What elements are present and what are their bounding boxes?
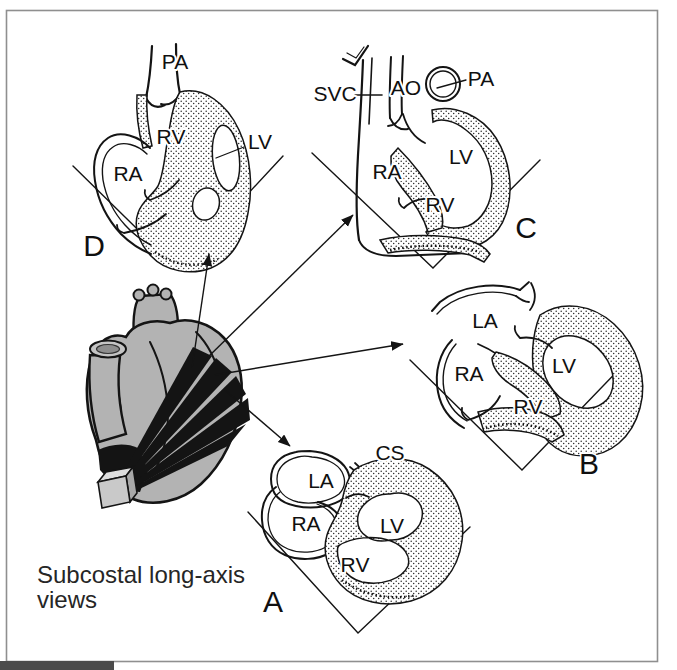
label-rv: RV <box>514 395 543 418</box>
label-lv: LV <box>449 145 473 168</box>
pa-cross-section-outer <box>426 67 460 101</box>
pa-trunk-line <box>146 46 152 98</box>
view-letter-d: D <box>83 229 105 262</box>
svc-wall-line <box>357 60 363 240</box>
transducer-front <box>98 476 130 508</box>
label-ra: RA <box>372 160 401 183</box>
label-lv: LV <box>248 130 272 153</box>
view-d: PA RV LV RA D <box>73 44 283 272</box>
pulmonary-vein-notch <box>516 282 535 310</box>
view-letter-b: B <box>579 447 599 480</box>
caption-line-2: views <box>37 586 97 613</box>
pulmonary-trunk-lumen <box>97 345 120 354</box>
label-pa: PA <box>468 67 494 90</box>
aortic-arch-branch <box>148 285 159 296</box>
label-la: LA <box>308 469 334 492</box>
la-roof-outer <box>432 286 520 311</box>
label-ra: RA <box>291 512 320 535</box>
label-pa: PA <box>162 50 188 73</box>
label-lv: LV <box>552 354 576 377</box>
label-ra: RA <box>113 162 142 185</box>
innominate-vein-notch <box>343 46 368 65</box>
view-letter-c: C <box>515 211 537 244</box>
caption-line-1: Subcostal long-axis <box>37 561 245 588</box>
svc-wall-line <box>369 58 372 124</box>
label-svc: SVC <box>313 82 356 105</box>
arrow-to-view-b <box>215 344 403 375</box>
diagram-canvas: PA RV LV RA D SVC AO PA RA LV RV C <box>0 0 677 670</box>
view-a: CS LA RA LV RV A <box>248 441 470 633</box>
aortic-arch-branch <box>134 290 145 301</box>
label-la: LA <box>472 309 498 332</box>
view-b: LA RA LV RV B <box>410 282 643 480</box>
label-cs: CS <box>375 441 404 464</box>
aortic-valve-cusps <box>388 114 425 143</box>
label-ao: AO <box>391 76 421 99</box>
label-ra: RA <box>454 362 483 385</box>
figure-subcostal-views: PA RV LV RA D SVC AO PA RA LV RV C <box>0 0 677 670</box>
cropped-footer-bar <box>0 661 114 670</box>
aortic-arch-branch <box>161 289 172 300</box>
label-rv: RV <box>341 553 370 576</box>
label-lv: LV <box>380 514 404 537</box>
view-c: SVC AO PA RA LV RV C <box>312 46 540 268</box>
label-rv: RV <box>426 193 455 216</box>
heart-3d-illustration <box>87 285 250 509</box>
view-letter-a: A <box>263 585 283 618</box>
pa-leader-line <box>437 80 466 88</box>
label-rv: RV <box>157 125 186 148</box>
lv-myocardium-loop <box>136 91 250 272</box>
